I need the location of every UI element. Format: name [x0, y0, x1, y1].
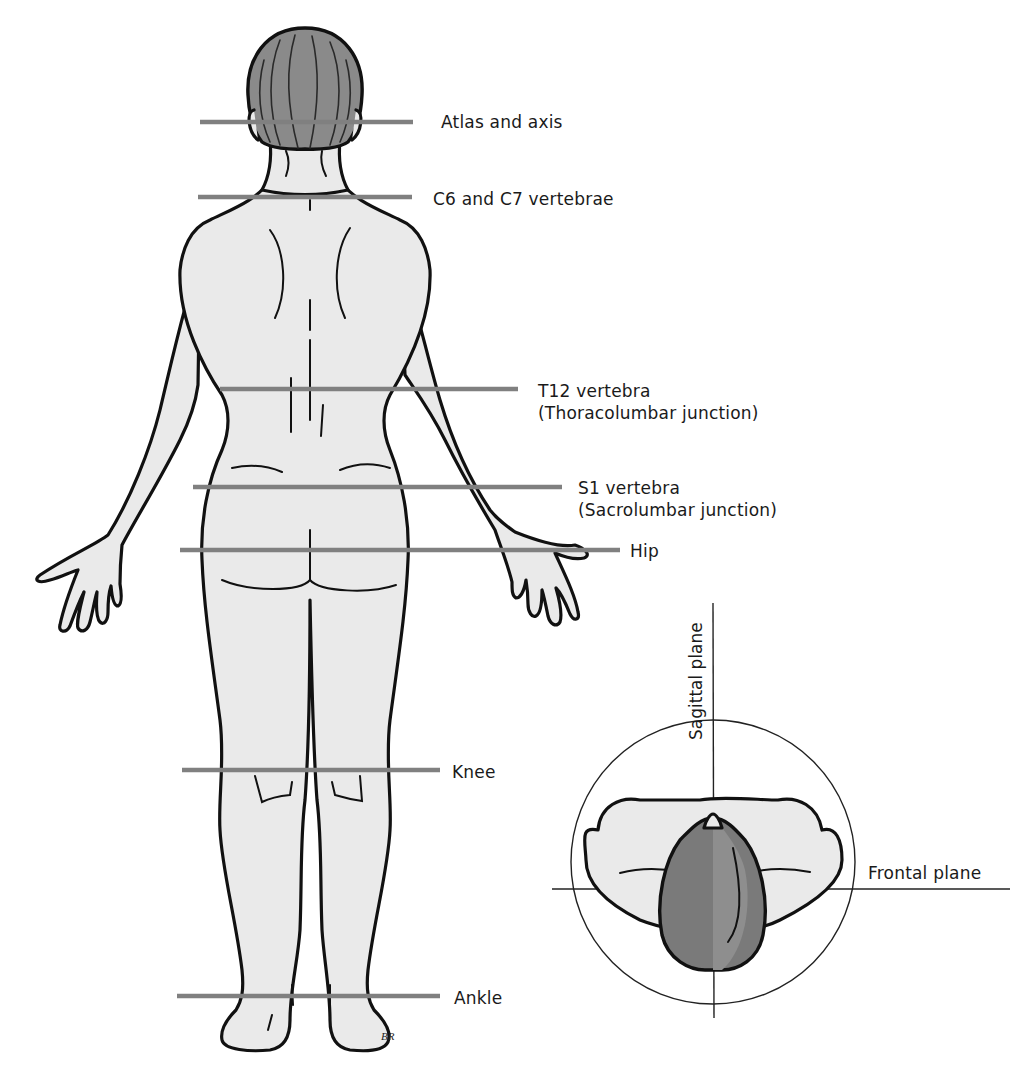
label-atlas-axis: Atlas and axis: [441, 111, 563, 133]
left-arm: [37, 258, 200, 631]
artist-initials: BR: [381, 1030, 395, 1042]
label-sagittal-plane: Sagittal plane: [686, 622, 706, 740]
plane-inset: [552, 603, 1010, 1018]
posterior-body: [37, 28, 587, 1051]
label-frontal-plane: Frontal plane: [868, 862, 981, 884]
label-c6-c7: C6 and C7 vertebrae: [433, 188, 614, 210]
torso-and-legs: [180, 180, 430, 1051]
label-hip: Hip: [630, 540, 659, 562]
label-knee: Knee: [452, 761, 496, 783]
anatomy-figure: BR: [0, 0, 1035, 1073]
right-arm: [400, 258, 587, 625]
label-ankle: Ankle: [454, 987, 502, 1009]
label-t12: T12 vertebra (Thoracolumbar junction): [538, 380, 759, 424]
label-s1: S1 vertebra (Sacrolumbar junction): [578, 477, 777, 521]
